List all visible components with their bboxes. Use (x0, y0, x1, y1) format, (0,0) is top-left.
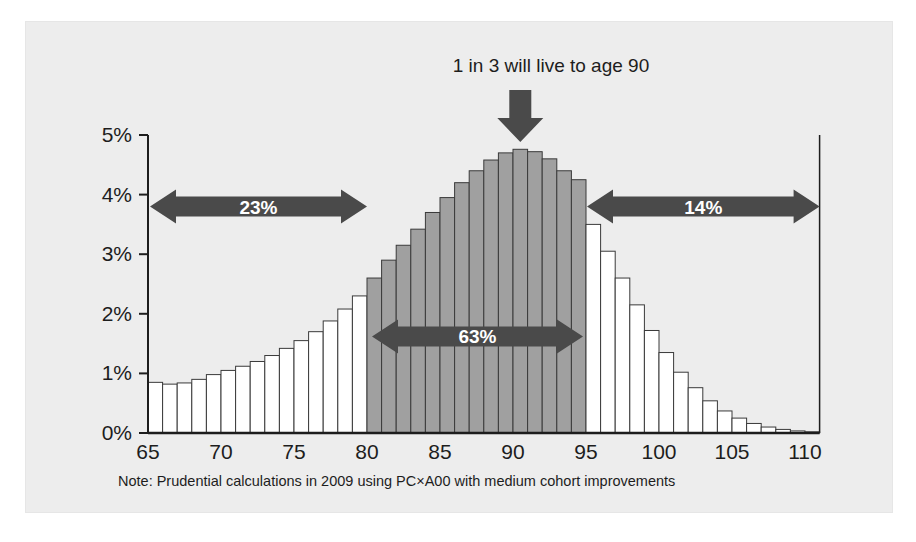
histogram-bar-age-103 (703, 401, 718, 433)
middle-band-label: 63% (458, 326, 496, 347)
histogram-bar-age-68 (192, 379, 207, 433)
x-tick-label-80: 80 (355, 440, 378, 463)
histogram-bar-age-70 (221, 370, 236, 433)
histogram-bar-age-85 (440, 198, 455, 433)
histogram-bar-age-104 (717, 411, 732, 433)
histogram-bar-age-93 (557, 171, 572, 433)
histogram-bar-age-106 (747, 423, 762, 433)
histogram-bar-age-92 (542, 159, 557, 433)
histogram-bar-age-80 (367, 278, 382, 433)
plot-area: 0%1%2%3%4%5% 65707580859095100105110 23%… (0, 0, 916, 542)
x-tick-label-90: 90 (501, 440, 524, 463)
figure-note: Note: Prudential calculations in 2009 us… (118, 473, 675, 489)
right-band-label: 14% (684, 197, 722, 218)
y-tick-label-4%: 4% (102, 183, 132, 206)
histogram-bar-age-72 (250, 361, 265, 433)
histogram-bar-age-65 (148, 382, 163, 433)
y-tick-labels: 0%1%2%3%4%5% (102, 123, 132, 444)
histogram-bar-age-75 (294, 341, 309, 433)
histogram-bar-age-94 (571, 180, 586, 433)
histogram-bar-age-67 (177, 383, 192, 433)
x-tick-label-75: 75 (282, 440, 305, 463)
y-tick-label-1%: 1% (102, 361, 132, 384)
histogram-bar-age-99 (644, 330, 659, 433)
histogram-bar-age-66 (163, 384, 178, 433)
histogram-bar-age-98 (630, 305, 645, 433)
histogram-bar-age-77 (323, 321, 338, 433)
histogram-bar-age-79 (352, 296, 367, 433)
histogram-bar-age-101 (674, 372, 689, 433)
x-tick-label-100: 100 (641, 440, 676, 463)
histogram-bar-age-73 (265, 356, 280, 433)
bars-group (148, 149, 820, 433)
x-tick-label-85: 85 (428, 440, 451, 463)
y-tick-label-0%: 0% (102, 421, 132, 444)
histogram-chart: 0%1%2%3%4%5% 65707580859095100105110 23%… (0, 0, 916, 542)
chart-title: 1 in 3 will live to age 90 (453, 55, 649, 76)
x-tick-label-95: 95 (574, 440, 597, 463)
histogram-bar-age-71 (236, 366, 251, 433)
histogram-bar-age-86 (455, 183, 470, 433)
y-tick-label-2%: 2% (102, 302, 132, 325)
histogram-bar-age-69 (206, 375, 221, 433)
histogram-bar-age-91 (528, 152, 543, 433)
histogram-bar-age-90 (513, 149, 528, 433)
y-tick-label-3%: 3% (102, 242, 132, 265)
histogram-bar-age-76 (309, 332, 324, 433)
x-tick-label-110: 110 (788, 440, 821, 463)
x-tick-label-65: 65 (136, 440, 159, 463)
left-band-label: 23% (239, 197, 277, 218)
x-tick-label-105: 105 (714, 440, 749, 463)
histogram-bar-age-88 (484, 160, 499, 433)
x-tick-label-70: 70 (209, 440, 232, 463)
histogram-bar-age-100 (659, 353, 674, 433)
histogram-bar-age-78 (338, 309, 353, 433)
histogram-bar-age-74 (279, 348, 294, 433)
histogram-bar-age-102 (688, 388, 703, 433)
histogram-bar-age-105 (732, 418, 747, 433)
histogram-bar-age-87 (469, 171, 484, 433)
figure-root: 0%1%2%3%4%5% 65707580859095100105110 23%… (0, 0, 916, 542)
histogram-bar-age-84 (425, 212, 440, 433)
x-tick-labels: 65707580859095100105110 (136, 440, 821, 463)
y-tick-label-5%: 5% (102, 123, 132, 146)
histogram-bar-age-95 (586, 224, 601, 433)
peak-pointer-down-arrow-icon (497, 90, 543, 142)
histogram-bar-age-89 (498, 153, 513, 433)
histogram-bar-age-96 (601, 251, 616, 433)
histogram-bar-age-97 (615, 278, 630, 433)
